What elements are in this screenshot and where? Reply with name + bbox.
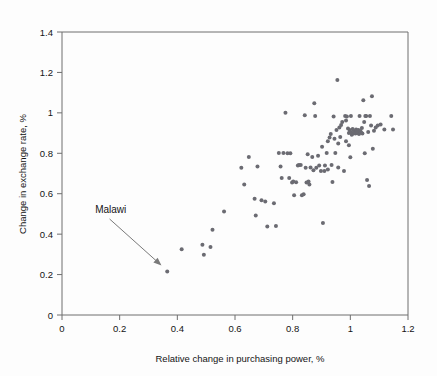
data-point (211, 228, 215, 232)
data-point (364, 114, 368, 118)
data-point (313, 114, 317, 118)
data-point (180, 247, 184, 251)
data-point (336, 165, 340, 169)
data-point (277, 151, 281, 155)
data-point (326, 139, 330, 143)
data-point (320, 145, 324, 149)
annotation-arrow-line (110, 219, 157, 261)
data-point (317, 163, 321, 167)
y-axis-title: Change in exchange rate, % (17, 114, 28, 234)
data-point (242, 183, 246, 187)
data-point (294, 180, 298, 184)
x-tick-label: 0.2 (113, 323, 126, 334)
data-point (345, 115, 349, 119)
data-point (253, 197, 257, 201)
data-point (344, 119, 348, 123)
data-point (348, 155, 352, 159)
y-tick-label: 0 (48, 310, 53, 321)
data-point (363, 151, 367, 155)
y-tick-label: 1 (48, 107, 53, 118)
data-point (280, 176, 284, 180)
data-point (368, 114, 372, 118)
data-point (323, 163, 327, 167)
data-point (347, 143, 351, 147)
data-point (326, 167, 330, 171)
data-point (340, 120, 344, 124)
data-point (306, 152, 310, 156)
data-points-layer (165, 78, 395, 273)
y-tick-label: 1.2 (40, 67, 53, 78)
data-point (239, 166, 243, 170)
data-point (361, 98, 365, 102)
data-point (336, 142, 340, 146)
data-point (325, 151, 329, 155)
data-point (287, 176, 291, 180)
y-axis-ticks: 00.20.40.60.811.21.4 (40, 27, 62, 321)
data-point (281, 151, 285, 155)
data-point (360, 126, 364, 130)
data-point (379, 123, 383, 127)
x-tick-label: 1.2 (401, 323, 414, 334)
data-point (321, 221, 325, 225)
data-point (362, 120, 366, 124)
y-tick-label: 1.4 (40, 27, 53, 38)
y-tick-label: 0.6 (40, 188, 53, 199)
data-point (299, 163, 303, 167)
data-point (304, 166, 308, 170)
data-point (360, 131, 364, 135)
data-point (358, 114, 362, 118)
data-point (285, 151, 289, 155)
data-point (365, 178, 369, 182)
y-tick-label: 0.2 (40, 269, 53, 280)
data-point (202, 253, 206, 257)
data-point (391, 127, 395, 131)
data-point (292, 193, 296, 197)
data-point (319, 169, 323, 173)
data-point (279, 164, 283, 168)
data-point (367, 184, 371, 188)
data-point (330, 180, 334, 184)
data-point (265, 224, 269, 228)
scatter-plot: 00.20.40.60.811.2 00.20.40.60.811.21.4 M… (0, 0, 437, 376)
x-tick-label: 0.6 (228, 323, 241, 334)
y-tick-label: 0.8 (40, 148, 53, 159)
data-point (255, 164, 259, 168)
data-point (389, 114, 393, 118)
data-point (332, 115, 336, 119)
data-point (344, 139, 348, 143)
data-point (247, 155, 251, 159)
data-point (369, 123, 373, 127)
data-point (312, 101, 316, 105)
data-point (222, 210, 226, 214)
x-axis-title: Relative change in purchasing power, % (156, 353, 326, 364)
data-point (329, 132, 333, 136)
data-point (283, 111, 287, 115)
data-point (272, 201, 276, 205)
annotation-label-malawi: Malawi (95, 204, 126, 215)
x-tick-label: 0 (59, 323, 64, 334)
plot-frame (62, 32, 408, 315)
data-point (370, 94, 374, 98)
data-point (316, 154, 320, 158)
data-point (302, 192, 306, 196)
x-tick-label: 1 (348, 323, 353, 334)
data-point (263, 199, 267, 203)
data-point (305, 181, 309, 185)
data-point (310, 155, 314, 159)
data-point (254, 214, 258, 218)
data-point (328, 136, 332, 140)
y-tick-label: 0.4 (40, 229, 53, 240)
data-point (342, 169, 346, 173)
data-point (349, 114, 353, 118)
data-point (335, 78, 339, 82)
data-point (200, 243, 204, 247)
data-point (322, 169, 326, 173)
data-point (309, 165, 313, 169)
data-point (165, 270, 169, 274)
data-point (303, 113, 307, 117)
data-point (260, 198, 264, 202)
data-point (332, 137, 336, 141)
data-point (338, 135, 342, 139)
data-point (333, 151, 337, 155)
data-point (208, 245, 212, 249)
